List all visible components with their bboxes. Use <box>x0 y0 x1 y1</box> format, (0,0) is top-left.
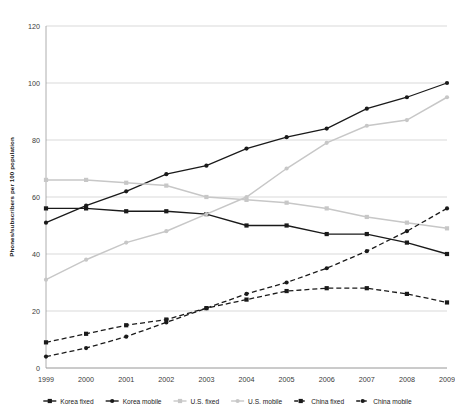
data-point <box>164 320 168 324</box>
legend-marker <box>236 399 240 403</box>
legend-item-korea-fixed[interactable]: Korea fixed <box>43 398 94 405</box>
data-point <box>124 181 128 185</box>
x-tick-label: 2003 <box>198 375 214 384</box>
data-point <box>164 172 168 176</box>
data-point <box>124 335 128 339</box>
legend-label: China mobile <box>373 398 412 405</box>
data-point <box>285 201 289 205</box>
legend-item-china-mobile[interactable]: China mobile <box>356 398 412 405</box>
legend-label: U.S. fixed <box>191 398 220 405</box>
legend-item-korea-mobile[interactable]: Korea mobile <box>106 398 162 405</box>
data-point <box>84 332 88 336</box>
x-tick-label: 2008 <box>399 375 415 384</box>
data-point <box>164 209 168 213</box>
data-point <box>405 229 409 233</box>
data-point <box>124 189 128 193</box>
legend-marker <box>178 399 182 403</box>
data-point <box>204 212 208 216</box>
data-point <box>244 195 248 199</box>
data-point <box>405 221 409 225</box>
data-point <box>405 95 409 99</box>
chart-container: 0204060801001201999200020012002200320042… <box>0 0 455 420</box>
data-point <box>365 107 369 111</box>
y-tick-label: 80 <box>32 136 40 145</box>
line-chart: 0204060801001201999200020012002200320042… <box>0 0 455 420</box>
x-tick-label: 2007 <box>359 375 375 384</box>
y-tick-label: 0 <box>36 364 40 373</box>
legend-label: China fixed <box>311 398 344 405</box>
x-tick-label: 2000 <box>78 375 94 384</box>
data-point <box>44 221 48 225</box>
data-point <box>325 141 329 145</box>
y-tick-label: 120 <box>28 22 40 31</box>
data-point <box>405 118 409 122</box>
data-point <box>365 286 369 290</box>
x-tick-label: 2006 <box>319 375 335 384</box>
data-point <box>164 184 168 188</box>
data-point <box>325 286 329 290</box>
y-tick-label: 20 <box>32 307 40 316</box>
data-point <box>405 292 409 296</box>
data-point <box>325 206 329 210</box>
x-tick-label: 2002 <box>158 375 174 384</box>
data-point <box>244 298 248 302</box>
x-tick-label: 2005 <box>279 375 295 384</box>
data-point <box>44 178 48 182</box>
legend-label: Korea mobile <box>123 398 162 405</box>
data-point <box>124 209 128 213</box>
data-point <box>84 203 88 207</box>
x-tick-label: 2004 <box>239 375 255 384</box>
data-point <box>325 266 329 270</box>
data-point <box>285 289 289 293</box>
legend-marker <box>110 399 114 403</box>
x-tick-label: 2009 <box>439 375 455 384</box>
data-point <box>325 232 329 236</box>
data-point <box>124 323 128 327</box>
data-point <box>84 178 88 182</box>
legend-item-u-s-fixed[interactable]: U.S. fixed <box>174 398 220 405</box>
data-point <box>204 195 208 199</box>
legend-label: U.S. mobile <box>248 398 282 405</box>
data-point <box>84 346 88 350</box>
data-point <box>445 252 449 256</box>
data-point <box>285 223 289 227</box>
data-point <box>44 206 48 210</box>
legend-marker <box>48 399 52 403</box>
data-point <box>244 223 248 227</box>
data-point <box>44 278 48 282</box>
data-point <box>365 215 369 219</box>
legend-marker <box>361 399 365 403</box>
data-point <box>285 166 289 170</box>
data-point <box>365 232 369 236</box>
data-point <box>445 81 449 85</box>
data-point <box>365 249 369 253</box>
data-point <box>445 300 449 304</box>
data-point <box>84 258 88 262</box>
y-tick-label: 60 <box>32 193 40 202</box>
legend-item-china-fixed[interactable]: China fixed <box>294 398 344 405</box>
y-tick-label: 40 <box>32 250 40 259</box>
data-point <box>365 124 369 128</box>
data-point <box>44 340 48 344</box>
x-tick-label: 2001 <box>118 375 134 384</box>
data-point <box>325 127 329 131</box>
data-point <box>445 95 449 99</box>
data-point <box>124 241 128 245</box>
y-tick-label: 100 <box>28 79 40 88</box>
data-point <box>285 280 289 284</box>
data-point <box>445 206 449 210</box>
data-point <box>285 135 289 139</box>
data-point <box>244 146 248 150</box>
data-point <box>164 229 168 233</box>
legend-item-u-s-mobile[interactable]: U.S. mobile <box>231 398 282 405</box>
data-point <box>44 355 48 359</box>
legend-marker <box>299 399 303 403</box>
data-point <box>405 241 409 245</box>
data-point <box>244 292 248 296</box>
data-point <box>204 164 208 168</box>
legend-label: Korea fixed <box>60 398 94 405</box>
y-axis-title: Phones/subscribers per 100 population <box>8 137 15 257</box>
data-point <box>204 306 208 310</box>
data-point <box>445 226 449 230</box>
x-tick-label: 1999 <box>38 375 54 384</box>
